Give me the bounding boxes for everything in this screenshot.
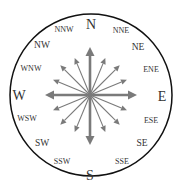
label-e: E	[158, 89, 167, 104]
label-nw: NW	[34, 40, 50, 50]
label-n: N	[86, 17, 96, 32]
label-ese: ESE	[144, 116, 158, 125]
label-s: S	[86, 168, 94, 183]
arrow-se-icon	[90, 95, 120, 125]
label-nne: NNE	[113, 26, 130, 35]
label-nnw: NNW	[54, 25, 74, 34]
label-wsw: WSW	[17, 114, 37, 123]
arrow-sw-icon	[60, 95, 90, 125]
label-ene: ENE	[143, 65, 159, 74]
label-w: W	[12, 88, 26, 103]
label-wnw: WNW	[21, 64, 42, 73]
arrow-ne-icon	[90, 65, 120, 95]
label-ssw: SSW	[54, 157, 71, 166]
compass-rose-diagram: NNNENEENEEESESESSESSSWSWWSWWWNWNWNNW	[0, 0, 181, 189]
arrow-nw-icon	[60, 65, 90, 95]
label-se: SE	[136, 138, 147, 148]
label-sw: SW	[35, 138, 49, 148]
label-ne: NE	[132, 42, 145, 52]
compass-arrows	[45, 47, 137, 145]
label-sse: SSE	[115, 157, 129, 166]
